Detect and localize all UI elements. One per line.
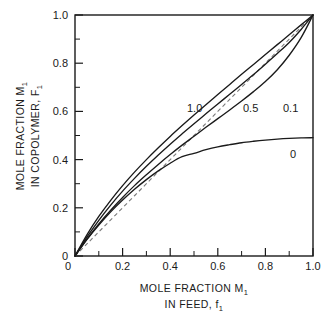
x-axis-title-line1-sub: 1 <box>244 288 249 297</box>
y-tick-label: 0 <box>62 250 68 262</box>
y-axis-title: MOLE FRACTION M1 IN COPOLYMER, F1 <box>14 82 44 191</box>
y-tick-label: 0.8 <box>53 57 68 69</box>
y-tick-label: 1.0 <box>53 9 68 21</box>
x-tick-label: 0.2 <box>115 260 130 272</box>
x-axis-title-line2-sub: 1 <box>219 304 224 313</box>
curve-label-1-0: 1.0 <box>187 102 202 114</box>
y-tick-label: 0.6 <box>53 105 68 117</box>
x-tick-label: 0.4 <box>163 260 178 272</box>
x-axis-title-line1: MOLE FRACTION M <box>140 282 244 294</box>
y-axis-title-line1: MOLE FRACTION M <box>14 86 26 190</box>
x-tick-label: 0.6 <box>210 260 225 272</box>
y-axis-title-line2: IN COPOLYMER, F <box>29 89 41 187</box>
y-tick-label: 0.4 <box>53 154 68 166</box>
y-axis-title-line2-sub: 1 <box>35 85 44 90</box>
curve-label-0-5: 0.5 <box>243 102 258 114</box>
curve-label-0: 0 <box>290 148 296 160</box>
x-tick-label: 1.0 <box>305 260 320 272</box>
x-axis-title-line2: IN FEED, f <box>165 298 219 310</box>
y-axis-title-line1-sub: 1 <box>20 82 29 87</box>
y-tick-label: 0.2 <box>53 202 68 214</box>
copolymer-composition-chart: 0 0.2 0.4 0.6 0.8 1.0 0 0.2 0.4 0.6 0.8 … <box>0 0 334 323</box>
x-tick-label: 0.8 <box>258 260 273 272</box>
curve-label-0-1: 0.1 <box>283 102 298 114</box>
chart-svg: 0 0.2 0.4 0.6 0.8 1.0 0 0.2 0.4 0.6 0.8 … <box>0 0 334 323</box>
